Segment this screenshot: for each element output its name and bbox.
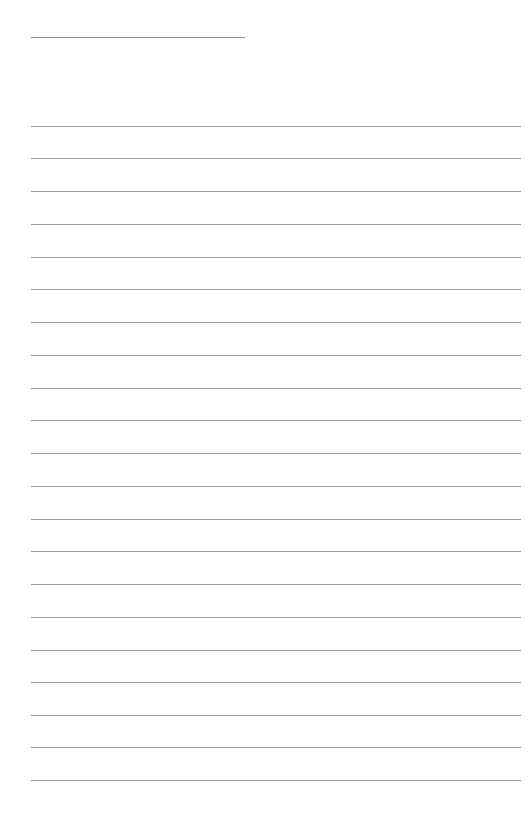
header-rule [31, 37, 245, 38]
ruled-line [31, 355, 521, 356]
ruled-line [31, 453, 521, 454]
ruled-line [31, 224, 521, 225]
ruled-line [31, 780, 521, 781]
writing-area[interactable] [0, 0, 528, 828]
document-page [0, 0, 528, 828]
ruled-line [31, 747, 521, 748]
ruled-line [31, 682, 521, 683]
ruled-line [31, 257, 521, 258]
ruled-line [31, 191, 521, 192]
ruled-line [31, 551, 521, 552]
ruled-line [31, 289, 521, 290]
ruled-line [31, 126, 521, 127]
ruled-line [31, 650, 521, 651]
ruled-line [31, 388, 521, 389]
ruled-line [31, 420, 521, 421]
ruled-line [31, 519, 521, 520]
ruled-line [31, 584, 521, 585]
ruled-line [31, 715, 521, 716]
ruled-line [31, 158, 521, 159]
ruled-line [31, 486, 521, 487]
ruled-line [31, 617, 521, 618]
ruled-line [31, 322, 521, 323]
